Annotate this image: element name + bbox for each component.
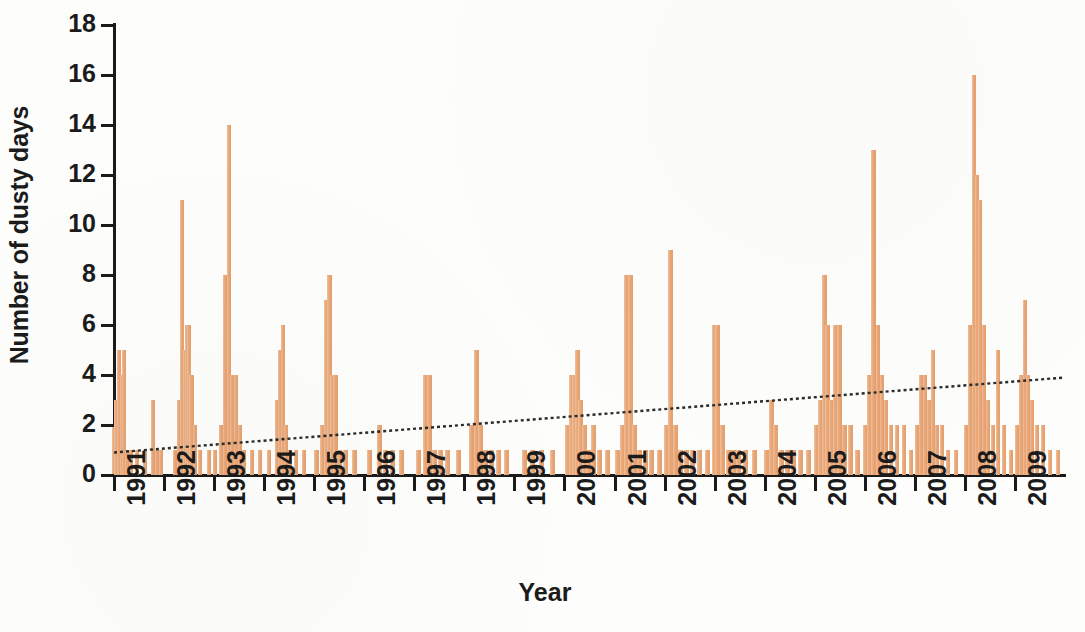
bar	[416, 450, 421, 475]
x-tick-mark	[814, 477, 817, 491]
x-tick-mark	[664, 477, 667, 491]
y-tick-mark	[101, 174, 114, 177]
bar	[258, 450, 263, 475]
bar	[855, 450, 860, 475]
y-tick-mark	[101, 474, 114, 477]
y-tick-mark	[101, 74, 114, 77]
plot-area	[114, 25, 1065, 475]
bar	[902, 425, 907, 475]
bar	[314, 450, 319, 475]
bar	[668, 250, 673, 475]
y-tick-label: 6	[50, 311, 96, 336]
bar	[267, 450, 272, 475]
bar	[213, 450, 218, 475]
bar	[550, 450, 555, 475]
bar	[302, 450, 307, 475]
bar	[705, 450, 710, 475]
x-tick-mark	[614, 477, 617, 491]
x-tick-label: 1994	[274, 450, 299, 570]
x-tick-label: 1998	[474, 450, 499, 570]
bar	[1009, 450, 1014, 475]
x-tick-label: 1997	[424, 450, 449, 570]
x-tick-label: 2009	[1025, 450, 1050, 570]
x-tick-label: 2005	[825, 450, 850, 570]
y-tick-label: 2	[50, 411, 96, 436]
bar	[615, 450, 620, 475]
y-tick-mark	[101, 424, 114, 427]
y-tick-label: 8	[50, 261, 96, 286]
bar	[159, 450, 164, 475]
y-tick-mark	[101, 274, 114, 277]
x-axis-title: Year	[455, 578, 635, 607]
x-tick-mark	[413, 477, 416, 491]
x-tick-mark	[964, 477, 967, 491]
x-tick-label: 2008	[975, 450, 1000, 570]
x-tick-mark	[864, 477, 867, 491]
bar	[806, 450, 811, 475]
y-tick-mark	[101, 374, 114, 377]
y-tick-label: 4	[50, 361, 96, 386]
bar	[1002, 425, 1007, 475]
y-tick-mark	[101, 224, 114, 227]
x-tick-label: 1999	[524, 450, 549, 570]
bar	[605, 450, 610, 475]
x-tick-mark	[1014, 477, 1017, 491]
bar	[367, 450, 372, 475]
bar	[250, 450, 255, 475]
x-tick-mark	[263, 477, 266, 491]
x-tick-mark	[463, 477, 466, 491]
x-tick-label: 1991	[124, 450, 149, 570]
y-tick-mark	[101, 124, 114, 127]
x-tick-label: 2006	[875, 450, 900, 570]
bar-series	[114, 25, 1065, 475]
x-tick-mark	[513, 477, 516, 491]
x-tick-mark	[714, 477, 717, 491]
x-tick-mark	[563, 477, 566, 491]
y-axis-tick-labels: 024681012141618	[38, 25, 96, 475]
x-tick-label: 1992	[174, 450, 199, 570]
x-tick-label: 1995	[324, 450, 349, 570]
bar	[456, 450, 461, 475]
x-tick-mark	[163, 477, 166, 491]
x-tick-mark	[313, 477, 316, 491]
y-tick-mark	[101, 24, 114, 27]
x-tick-mark	[113, 477, 116, 491]
x-tick-mark	[363, 477, 366, 491]
x-tick-label: 2002	[675, 450, 700, 570]
y-tick-label: 18	[50, 11, 96, 36]
y-tick-label: 0	[50, 461, 96, 486]
y-tick-label: 10	[50, 211, 96, 236]
x-tick-label: 1993	[224, 450, 249, 570]
x-tick-label: 2001	[625, 450, 650, 570]
x-tick-mark	[213, 477, 216, 491]
y-tick-label: 16	[50, 61, 96, 86]
bar	[504, 450, 509, 475]
bar	[352, 450, 357, 475]
y-tick-label: 12	[50, 161, 96, 186]
dusty-days-chart-figure: Number of dusty days Year 02468101214161…	[0, 0, 1085, 632]
bar	[764, 450, 769, 475]
bar	[909, 450, 914, 475]
bar	[954, 450, 959, 475]
x-tick-label: 2003	[725, 450, 750, 570]
y-axis-title: Number of dusty days	[2, 0, 36, 470]
bar	[752, 450, 757, 475]
bar	[715, 325, 720, 475]
x-tick-mark	[764, 477, 767, 491]
x-tick-label: 2004	[775, 450, 800, 570]
x-tick-label: 2000	[574, 450, 599, 570]
x-tick-label: 2007	[925, 450, 950, 570]
x-tick-label: 1996	[374, 450, 399, 570]
bar	[1056, 450, 1061, 475]
x-tick-mark	[914, 477, 917, 491]
y-tick-mark	[101, 324, 114, 327]
bar	[657, 450, 662, 475]
bar	[207, 450, 212, 475]
y-tick-label: 14	[50, 111, 96, 136]
